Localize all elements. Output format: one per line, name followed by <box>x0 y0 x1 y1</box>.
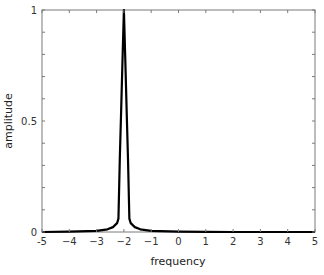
y-tick-label: 0 <box>31 227 37 238</box>
x-tick-label: 3 <box>257 236 263 247</box>
x-tick-label: −2 <box>117 236 132 247</box>
y-axis-label: amplitude <box>2 93 15 149</box>
x-axis-label: frequency <box>150 255 206 268</box>
x-tick-label: 4 <box>285 236 291 247</box>
x-tick-label: 5 <box>312 236 318 247</box>
plot-area <box>42 10 315 232</box>
x-tick-label: 2 <box>230 236 236 247</box>
x-tick-label: 1 <box>203 236 209 247</box>
y-tick-label: 1 <box>31 5 37 16</box>
x-tick-label: −1 <box>144 236 159 247</box>
y-tick-label: 0.5 <box>21 116 37 127</box>
line-chart: -5−4−3−2−1012345 00.51 frequency amplitu… <box>0 0 324 275</box>
x-tick-label: 0 <box>175 236 181 247</box>
x-tick-label: -5 <box>37 236 47 247</box>
x-tick-label: −3 <box>89 236 104 247</box>
axes-frame <box>42 10 315 232</box>
x-tick-label: −4 <box>62 236 77 247</box>
